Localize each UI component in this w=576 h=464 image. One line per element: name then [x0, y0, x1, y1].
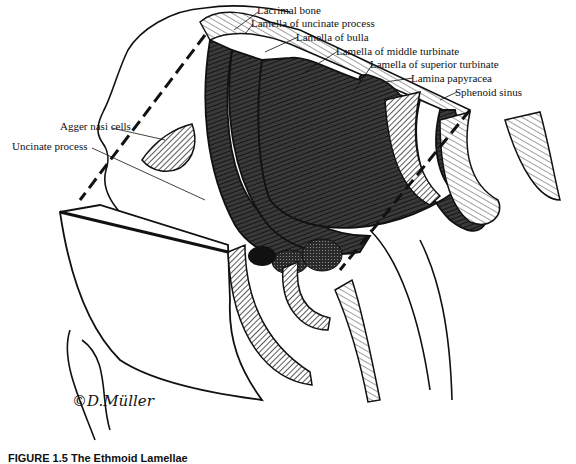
label-lamella-of-bulla: Lamella of bulla: [296, 31, 369, 43]
figure-caption: FIGURE 1.5 The Ethmoid Lamellae: [8, 452, 188, 464]
label-lacrimal-bone: Lacrimal bone: [257, 4, 321, 16]
label-lamina-papyracea: Lamina papyracea: [411, 72, 492, 84]
label-lamella-middle-turbinate: Lamella of middle turbinate: [336, 45, 459, 57]
lateral-wall-block: [60, 205, 262, 400]
lower-section-2: [283, 262, 330, 330]
label-agger-nasi-cells: Agger nasi cells: [60, 120, 131, 132]
label-lamella-uncinate-process: Lamella of uncinate process: [251, 17, 375, 29]
stippled-mass-3: [248, 246, 276, 266]
artist-signature: ©D.Müller: [72, 392, 154, 410]
label-uncinate-process: Uncinate process: [12, 140, 87, 152]
label-lamella-superior-turbinate: Lamella of superior turbinate: [370, 58, 499, 70]
lower-section-3: [335, 280, 380, 402]
stippled-mass-2: [302, 239, 342, 271]
agger-nasi-cells: [142, 124, 195, 171]
label-sphenoid-sinus: Sphenoid sinus: [455, 86, 522, 98]
right-section: [505, 112, 560, 200]
